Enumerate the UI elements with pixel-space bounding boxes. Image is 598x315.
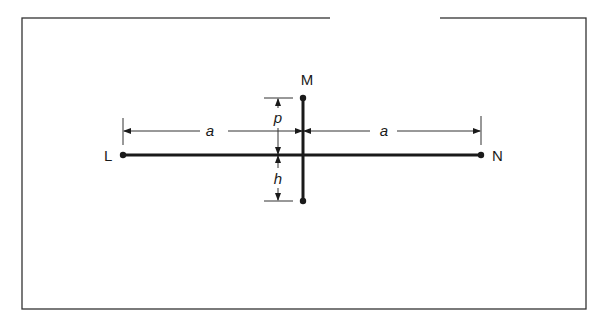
a-left-label: a [206,122,214,139]
point-M-label: M [301,71,314,88]
p-label: p [273,109,282,126]
h-label: h [274,170,282,187]
point-L-label: L [104,147,112,164]
point-M-top-dot [300,95,306,101]
a-right-label: a [380,122,388,139]
point-N-label: N [492,147,503,164]
point-N-dot [478,152,484,158]
point-L-dot [120,152,126,158]
electrode-array-diagram: a a p h L N M [0,0,598,315]
point-M-bottom-dot [300,198,306,204]
